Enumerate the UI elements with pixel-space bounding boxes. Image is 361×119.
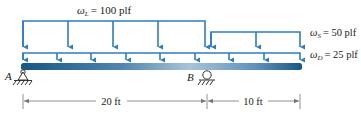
pin-support-a — [13, 70, 32, 85]
dead-load — [23, 53, 300, 60]
beam-loading-diagram: ωL= 100 plf ωS= 50 plf ωD= 25 plf A — [0, 0, 361, 119]
snow-load-label: ωS= 50 plf — [310, 27, 357, 40]
support-b-label: B — [187, 71, 194, 83]
live-load-label: ωL= 100 plf — [77, 4, 131, 18]
roller-support-b — [198, 71, 215, 85]
span-dimension-label: 20 ft — [101, 96, 121, 107]
support-a-label: A — [4, 70, 12, 82]
snow-load — [211, 32, 300, 47]
beam — [21, 63, 302, 70]
overhang-dimension-label: 10 ft — [243, 96, 263, 107]
live-load — [23, 21, 205, 47]
dead-load-label: ωD= 25 plf — [310, 49, 358, 62]
